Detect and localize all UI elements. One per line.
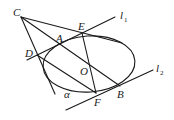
- label-d: D: [24, 47, 33, 59]
- label-c: C: [13, 6, 21, 18]
- label-o: O: [80, 65, 88, 77]
- geometry-diagram: C E A D O F B α l 1 l 2: [0, 0, 174, 120]
- label-l1: l: [120, 9, 123, 21]
- label-b: B: [117, 88, 124, 100]
- label-l2-sub: 2: [160, 69, 164, 77]
- label-a: A: [55, 32, 63, 44]
- label-alpha: α: [64, 88, 70, 100]
- label-f: F: [93, 96, 101, 108]
- label-l2: l: [156, 62, 159, 74]
- label-l1-sub: 1: [124, 16, 128, 24]
- line-l1: [27, 17, 115, 60]
- label-e: E: [77, 20, 85, 32]
- segment-ef: [82, 33, 96, 93]
